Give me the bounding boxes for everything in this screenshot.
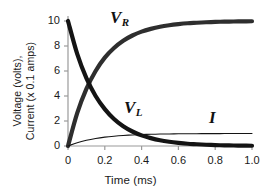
curve-v-r bbox=[68, 21, 252, 146]
curve-label-vl-sub: L bbox=[135, 106, 142, 118]
x-tick-label: 0.2 bbox=[88, 154, 122, 166]
curve-label-vl-base: V bbox=[124, 98, 135, 117]
x-tick-label: 0 bbox=[51, 154, 85, 166]
x-tick-label: 0.6 bbox=[161, 154, 195, 166]
y-tick-label: 2 bbox=[34, 114, 60, 126]
curve-label-vl: VL bbox=[124, 98, 143, 118]
curve-label-i: I bbox=[209, 108, 216, 128]
y-axis-title-line1: Voltage (volts), bbox=[11, 55, 23, 126]
x-tick-label: 0.8 bbox=[198, 154, 232, 166]
curve-label-vr: VR bbox=[110, 8, 129, 28]
data-curves bbox=[68, 21, 252, 146]
y-tick-label: 6 bbox=[34, 64, 60, 76]
y-tick-label: 4 bbox=[34, 89, 60, 101]
y-tick-label: 8 bbox=[34, 39, 60, 51]
x-tick-label: 0.4 bbox=[125, 154, 159, 166]
curve-label-vr-base: V bbox=[110, 8, 121, 27]
y-tick-label: 0 bbox=[34, 139, 60, 151]
curve-v-l bbox=[68, 21, 252, 146]
curve-label-vr-sub: R bbox=[121, 16, 129, 28]
y-tick-label: 10 bbox=[34, 14, 60, 26]
x-axis-title: Time (ms) bbox=[0, 174, 261, 186]
figure-rl-circuit-transient-chart: Voltage (volts), Current (x 0.1 amps) Ti… bbox=[0, 0, 261, 196]
x-tick-label: 1.0 bbox=[235, 154, 261, 166]
